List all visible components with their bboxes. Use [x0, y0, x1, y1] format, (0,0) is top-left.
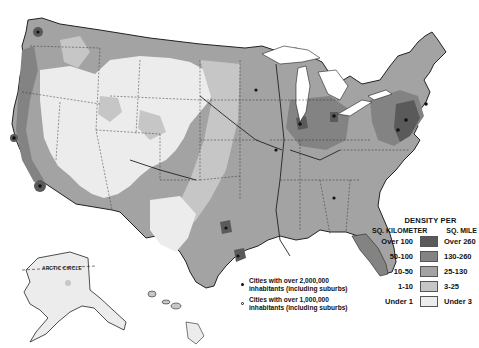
- city-new-york: [404, 118, 408, 122]
- legend-headers: SQ. KILOMETER SQ. MILE: [372, 227, 479, 234]
- legend-swatch: [420, 266, 438, 277]
- arctic-circle-label: ARCTIC CIRCLE: [42, 266, 82, 271]
- cities-legend: Cities with over 2,000,000 inhabitants (…: [238, 277, 348, 315]
- legend-mile-value: Under 3: [438, 297, 472, 306]
- legend-row: Under 1 Under 3: [372, 294, 479, 309]
- city-legend-line2: inhabitants (including suburbs): [249, 304, 348, 312]
- solid-dot-icon: [241, 283, 244, 286]
- legend-mile-value: Over 260: [438, 237, 476, 246]
- hawaii-inset: [148, 291, 204, 344]
- legend-swatch: [420, 236, 438, 247]
- city-boston: [424, 102, 428, 106]
- legend-swatch: [420, 281, 438, 292]
- legend-header-mile: SQ. MILE: [446, 227, 477, 234]
- city-minneapolis: [254, 88, 257, 91]
- density-legend: DENSITY PER SQ. KILOMETER SQ. MILE Over …: [372, 216, 479, 309]
- city-legend-line1: Cities with over 2,000,000: [249, 277, 348, 285]
- city-legend-line2: inhabitants (including suburbs): [249, 285, 348, 293]
- legend-km-value: Over 100: [372, 237, 420, 246]
- legend-mile-value: 3-25: [438, 282, 459, 291]
- city-legend-entry: Cities with over 2,000,000 inhabitants (…: [238, 277, 348, 292]
- legend-row: 50-100 130-260: [372, 249, 479, 264]
- city-chicago: [298, 122, 302, 126]
- city-legend-entry: Cities with over 1,000,000 inhabitants (…: [238, 296, 348, 311]
- legend-title: DENSITY PER: [382, 216, 479, 225]
- legend-row: Over 100 Over 260: [372, 234, 479, 249]
- legend-km-value: 50-100: [372, 252, 420, 261]
- city-atlanta: [332, 196, 335, 199]
- city-dallas: [224, 226, 227, 229]
- city-detroit: [332, 114, 336, 118]
- legend-km-value: 1-10: [372, 282, 420, 291]
- legend-row: 1-10 3-25: [372, 279, 479, 294]
- city-legend-line1: Cities with over 1,000,000: [249, 296, 348, 304]
- city-philadelphia: [396, 128, 400, 132]
- legend-header-km: SQ. KILOMETER: [372, 227, 427, 234]
- legend-row: 10-50 25-130: [372, 264, 479, 279]
- alaska-density-spot: [65, 280, 71, 286]
- legend-km-value: Under 1: [372, 297, 420, 306]
- city-los-angeles: [38, 184, 42, 188]
- city-st-louis: [274, 148, 277, 151]
- legend-swatch: [420, 251, 438, 262]
- open-dot-icon: [241, 302, 244, 305]
- city-seattle: [36, 30, 39, 33]
- city-san-francisco: [12, 136, 16, 140]
- legend-mile-value: 130-260: [438, 252, 472, 261]
- legend-mile-value: 25-130: [438, 267, 467, 276]
- legend-swatch: [420, 296, 438, 307]
- city-houston: [236, 254, 239, 257]
- legend-km-value: 10-50: [372, 267, 420, 276]
- houston-dense: [234, 248, 246, 262]
